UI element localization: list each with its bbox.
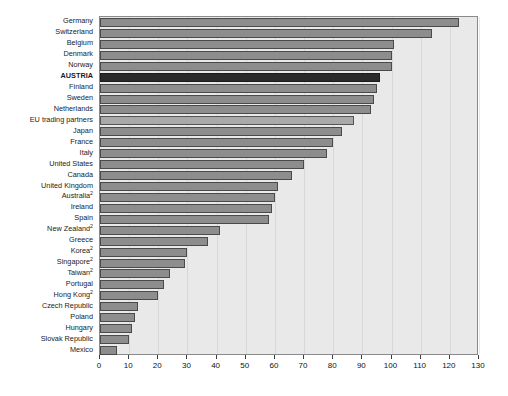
bars-layer: [100, 17, 477, 354]
category-label: Korea2: [71, 246, 93, 255]
bar: [100, 171, 292, 180]
bar-row: [100, 95, 479, 104]
category-label: Czech Republic: [42, 301, 93, 310]
bar: [100, 182, 278, 191]
footnote-marker: 2: [90, 288, 93, 294]
bar-row: [100, 73, 479, 82]
bar-row: [100, 280, 479, 289]
bar-row: [100, 204, 479, 213]
bar: [100, 40, 394, 49]
bar: [100, 62, 392, 71]
bar: [100, 127, 342, 136]
bar: [100, 346, 117, 355]
bar: [100, 280, 164, 289]
x-tick-mark: [216, 355, 217, 359]
plot-area: [99, 16, 478, 355]
x-tick-label: 60: [269, 361, 278, 371]
bar: [100, 73, 380, 82]
bar: [100, 248, 187, 257]
category-label: Denmark: [63, 49, 93, 58]
bar: [100, 259, 185, 268]
bar: [100, 51, 392, 60]
category-label: Taiwan2: [67, 268, 93, 277]
category-label: Switzerland: [55, 27, 93, 36]
x-tick-label: 50: [240, 361, 249, 371]
category-label: Greece: [69, 235, 93, 244]
x-tick-label: 30: [182, 361, 191, 371]
category-label: Belgium: [67, 38, 93, 47]
x-tick-label: 130: [471, 361, 484, 371]
bar-row: [100, 171, 479, 180]
category-label: Hungary: [65, 323, 93, 332]
bar-row: [100, 182, 479, 191]
x-tick-mark: [157, 355, 158, 359]
category-label: United States: [49, 159, 93, 168]
bar-row: [100, 105, 479, 114]
bar: [100, 302, 138, 311]
bar-row: [100, 138, 479, 147]
category-label: EU trading partners: [30, 115, 93, 124]
category-label: Finland: [69, 82, 93, 91]
bar-row: [100, 29, 479, 38]
category-label: Singapore2: [57, 257, 93, 266]
bar-row: [100, 160, 479, 169]
bar: [100, 204, 272, 213]
footnote-marker: 2: [90, 190, 93, 196]
x-tick-mark: [420, 355, 421, 359]
bar-chart: GermanySwitzerlandBelgiumDenmarkNorwayAU…: [0, 0, 508, 396]
category-label: Sweden: [67, 93, 93, 102]
x-tick-label: 20: [153, 361, 162, 371]
bar-row: [100, 193, 479, 202]
x-axis: 0102030405060708090100110120130: [99, 355, 478, 379]
bar-row: [100, 346, 479, 355]
category-label: France: [70, 137, 93, 146]
bar: [100, 215, 269, 224]
x-tick-label: 100: [384, 361, 397, 371]
category-label: Portugal: [66, 279, 93, 288]
bar-row: [100, 248, 479, 257]
footnote-marker: 2: [90, 256, 93, 262]
x-tick-mark: [478, 355, 479, 359]
category-label: Mexico: [70, 345, 93, 354]
bar: [100, 237, 208, 246]
bar-row: [100, 116, 479, 125]
bar: [100, 84, 377, 93]
bar-row: [100, 335, 479, 344]
footnote-marker: 2: [90, 267, 93, 273]
bar-row: [100, 18, 479, 27]
x-tick-mark: [245, 355, 246, 359]
x-tick-label: 40: [211, 361, 220, 371]
bar-row: [100, 226, 479, 235]
x-tick-label: 120: [442, 361, 455, 371]
category-label: Poland: [70, 312, 93, 321]
bar: [100, 18, 459, 27]
bar-row: [100, 269, 479, 278]
bar-row: [100, 51, 479, 60]
bar: [100, 335, 129, 344]
x-tick-mark: [361, 355, 362, 359]
x-tick-mark: [99, 355, 100, 359]
category-label: Germany: [63, 16, 93, 25]
gridline: [479, 17, 480, 354]
bar: [100, 105, 371, 114]
x-tick-label: 110: [413, 361, 426, 371]
category-label: Canada: [67, 170, 93, 179]
bar: [100, 313, 135, 322]
x-tick-label: 10: [124, 361, 133, 371]
x-tick-mark: [391, 355, 392, 359]
bar: [100, 149, 327, 158]
bar-row: [100, 313, 479, 322]
category-label: Italy: [80, 148, 93, 157]
category-label: AUSTRIA: [61, 71, 93, 80]
category-label: Norway: [68, 60, 93, 69]
bar-row: [100, 62, 479, 71]
x-tick-label: 0: [97, 361, 101, 371]
category-label: Australia2: [62, 191, 93, 200]
x-tick-label: 80: [328, 361, 337, 371]
category-label: Hong Kong2: [54, 290, 93, 299]
category-label: Japan: [73, 126, 93, 135]
bar-row: [100, 149, 479, 158]
x-tick-label: 90: [357, 361, 366, 371]
category-label: United Kingdom: [41, 181, 93, 190]
bar: [100, 138, 333, 147]
